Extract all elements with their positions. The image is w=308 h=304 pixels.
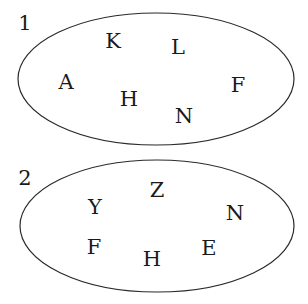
set-2-element: E	[201, 236, 216, 260]
set-1-element: K	[105, 29, 121, 53]
set-1-element: H	[120, 87, 138, 111]
set-1-element: A	[57, 70, 74, 94]
set-diagram: 1 K L A H N F 2 Z Y N F H E	[0, 0, 308, 304]
set-2-element: N	[226, 201, 244, 225]
set-1: 1 K L A H N F	[18, 11, 294, 145]
set-2-element: F	[87, 235, 102, 259]
set-1-label: 1	[18, 11, 31, 35]
set-1-element: L	[171, 35, 185, 59]
set-2-element: Y	[87, 195, 103, 219]
set-1-element: F	[231, 73, 246, 97]
set-2-element: Z	[150, 178, 165, 202]
set-2: 2 Z Y N F H E	[18, 160, 294, 292]
set-2-element: H	[143, 247, 161, 271]
set-2-label: 2	[18, 166, 31, 190]
set-1-element: N	[175, 104, 193, 128]
